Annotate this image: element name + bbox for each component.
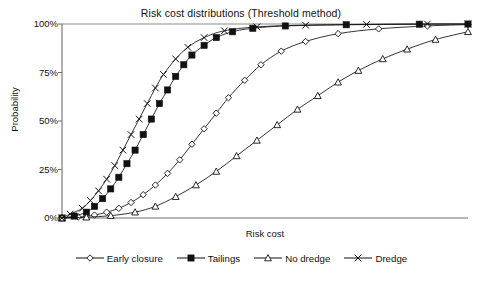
data-point-marker-filled-square: [148, 116, 154, 122]
data-point-marker-open-diamond: [302, 38, 308, 44]
data-point-marker-open-diamond: [103, 209, 109, 215]
figure-container: Risk cost distributions (Threshold metho…: [0, 0, 482, 284]
data-point-marker-open-triangle: [213, 168, 220, 174]
legend-item-label: Tailings: [208, 253, 240, 264]
data-point-marker-filled-square: [140, 131, 146, 137]
legend-item-no-dredge[interactable]: No dredge: [253, 252, 330, 264]
data-point-marker-cross-x: [201, 34, 208, 41]
data-point-marker-cross-x: [185, 44, 192, 51]
data-point-marker-cross-x: [103, 176, 110, 183]
data-point-marker-cross-x: [120, 147, 127, 154]
data-point-marker-filled-square: [173, 73, 179, 79]
data-point-marker-cross-x: [111, 162, 118, 169]
legend-marker-open-diamond: [75, 252, 105, 264]
series-no-dredge: [59, 28, 472, 220]
data-point-marker-open-triangle: [465, 28, 472, 34]
data-point-marker-open-triangle: [233, 153, 240, 159]
legend-item-tailings[interactable]: Tailings: [176, 252, 240, 264]
data-point-marker-filled-square: [188, 255, 194, 261]
data-point-marker-filled-square: [116, 174, 122, 180]
data-point-marker-open-triangle: [274, 121, 281, 127]
legend-item-label: No dredge: [285, 253, 330, 264]
legend-marker-filled-square: [176, 252, 206, 264]
data-point-marker-filled-square: [201, 42, 207, 48]
legend-item-label: Early closure: [107, 253, 163, 264]
data-point-marker-open-diamond: [278, 48, 284, 54]
data-point-marker-open-diamond: [140, 192, 146, 198]
data-point-marker-open-triangle: [253, 137, 260, 143]
series-line: [62, 25, 468, 218]
data-point-marker-open-diamond: [116, 205, 122, 211]
data-point-marker-cross-x: [172, 56, 179, 63]
data-point-marker-open-diamond: [128, 199, 134, 205]
data-point-marker-cross-x: [136, 116, 143, 123]
legend-item-label: Dredge: [375, 253, 407, 264]
data-point-marker-open-diamond: [87, 255, 93, 261]
data-point-marker-open-triangle: [172, 193, 179, 199]
figure-caption: [0, 274, 482, 284]
data-point-marker-cross-x: [144, 100, 151, 107]
data-point-marker-cross-x: [221, 27, 228, 34]
data-point-marker-filled-square: [181, 62, 187, 68]
data-point-marker-open-diamond: [335, 31, 341, 37]
data-point-marker-filled-square: [189, 52, 195, 58]
data-point-marker-cross-x: [160, 71, 167, 78]
series-line: [62, 24, 468, 218]
data-point-marker-filled-square: [132, 147, 138, 153]
data-point-marker-filled-square: [91, 203, 97, 209]
legend-item-dredge[interactable]: Dredge: [343, 252, 407, 264]
data-point-marker-open-triangle: [314, 92, 321, 98]
data-point-marker-cross-x: [87, 197, 94, 204]
data-point-marker-filled-square: [100, 196, 106, 202]
data-point-marker-open-triangle: [152, 203, 159, 209]
x-axis-label: Risk cost: [62, 228, 468, 239]
data-point-marker-open-triangle: [355, 67, 362, 73]
data-point-marker-open-triangle: [294, 106, 301, 112]
data-point-marker-filled-square: [108, 186, 114, 192]
data-point-marker-cross-x: [79, 205, 86, 212]
data-point-marker-open-triangle: [193, 182, 200, 188]
data-point-marker-cross-x: [128, 131, 135, 138]
legend-item-early-closure[interactable]: Early closure: [75, 252, 163, 264]
chart-legend: Early closureTailingsNo dredgeDredge: [0, 252, 482, 264]
legend-marker-cross-x: [343, 252, 373, 264]
series-line: [62, 24, 468, 218]
data-point-marker-filled-square: [164, 87, 170, 93]
data-point-marker-filled-square: [124, 161, 130, 167]
series-line: [62, 32, 468, 218]
legend-marker-open-triangle: [253, 252, 283, 264]
data-point-marker-open-triangle: [335, 79, 342, 85]
data-point-marker-filled-square: [156, 100, 162, 106]
data-point-marker-open-triangle: [379, 56, 386, 62]
data-point-marker-filled-square: [213, 34, 219, 40]
data-point-marker-cross-x: [95, 188, 102, 195]
data-point-marker-cross-x: [152, 85, 159, 92]
data-point-marker-open-diamond: [375, 26, 381, 32]
data-point-marker-open-triangle: [404, 46, 411, 52]
plot-area: [0, 0, 482, 284]
